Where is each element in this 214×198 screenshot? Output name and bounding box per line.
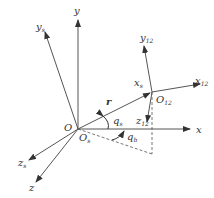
x12-axis [152, 84, 200, 92]
x12-label: x12 [195, 75, 208, 87]
z-axis [36, 129, 78, 182]
xs-label: xs [134, 77, 143, 89]
r-label: r [106, 96, 112, 107]
y-label: y [73, 5, 80, 16]
qs-label: qs [113, 115, 123, 127]
y12-label: y12 [139, 32, 153, 44]
y12-axis [144, 46, 152, 92]
o-label: O [64, 122, 72, 133]
ys-label: ys [35, 21, 45, 33]
ys-axis [45, 32, 78, 129]
coordinate-frame-diagram: y ys x zs z O Os r qs qb O12 xs x12 y12 … [0, 0, 214, 198]
qb-angle-arc [112, 131, 124, 140]
z12-axis [147, 92, 152, 122]
z12-label: z12 [135, 115, 149, 127]
os-label: Os [79, 132, 90, 144]
qb-label: qb [127, 131, 137, 143]
o12-label: O12 [156, 94, 172, 106]
zs-label: zs [17, 157, 26, 169]
zs-axis [29, 129, 78, 160]
x-label: x [196, 124, 202, 135]
z-label: z [28, 182, 35, 193]
qs-angle-arc [103, 116, 108, 129]
